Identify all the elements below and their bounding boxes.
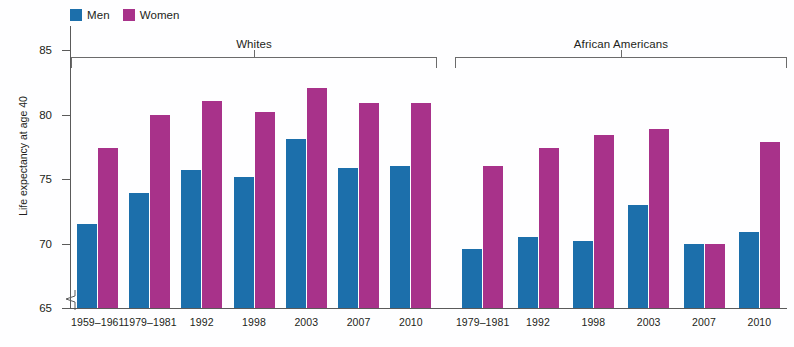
bar-women <box>649 129 669 308</box>
plot-area <box>0 0 794 308</box>
category-label: 2007 <box>332 316 384 328</box>
life-expectancy-bar-chart: Men Women 6570758085 Life expectancy at … <box>0 0 794 347</box>
category-label: 2003 <box>280 316 332 328</box>
category-label: 2010 <box>385 316 437 328</box>
bar-men <box>234 177 254 308</box>
bar-women <box>307 88 327 308</box>
category-label: 2010 <box>732 316 787 328</box>
bar-men <box>573 241 593 308</box>
bar-men <box>628 205 648 308</box>
bar-women <box>705 244 725 308</box>
x-axis-line <box>70 308 787 309</box>
category-label: 1998 <box>228 316 280 328</box>
bar-men <box>181 170 201 308</box>
bar-women <box>760 142 780 308</box>
bar-women <box>483 166 503 308</box>
bar-men <box>739 232 759 308</box>
category-label: 2007 <box>676 316 731 328</box>
category-label: 1992 <box>510 316 565 328</box>
category-label: 2003 <box>621 316 676 328</box>
bar-women <box>594 135 614 308</box>
category-label: 1959–1961 <box>71 316 123 328</box>
category-label: 1992 <box>176 316 228 328</box>
bar-women <box>539 148 559 308</box>
category-label: 1979–1981 <box>123 316 175 328</box>
category-label: 1979–1981 <box>455 316 510 328</box>
bar-men <box>390 166 410 308</box>
bar-men <box>684 244 704 308</box>
y-tick-mark <box>62 308 70 309</box>
bar-women <box>150 115 170 308</box>
bar-men <box>77 224 97 308</box>
bar-men <box>462 249 482 308</box>
bar-women <box>98 148 118 308</box>
bar-women <box>202 101 222 308</box>
bar-men <box>338 168 358 308</box>
bar-men <box>518 237 538 308</box>
category-label: 1998 <box>566 316 621 328</box>
bar-men <box>286 139 306 308</box>
bar-men <box>129 193 149 308</box>
bar-women <box>255 112 275 308</box>
bar-women <box>359 103 379 308</box>
bar-women <box>411 103 431 308</box>
